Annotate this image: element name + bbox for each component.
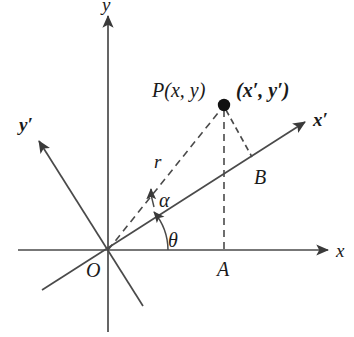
- alpha-angle-label: α: [159, 190, 170, 210]
- origin-label: O: [86, 260, 100, 280]
- y-prime-axis-label: y′: [19, 115, 33, 134]
- x-prime-axis-line: [42, 122, 305, 290]
- theta-angle-label: θ: [168, 230, 178, 250]
- foot-b-label: B: [254, 167, 266, 187]
- alpha-angle-arc: [151, 189, 154, 207]
- diagram-canvas: [0, 0, 354, 337]
- point-p-label: P(x, y): [152, 80, 205, 100]
- point-p-prime-label: (x′, y′): [236, 80, 289, 100]
- x-axis-label: x: [336, 241, 344, 260]
- radius-segment-dashed: [108, 108, 222, 250]
- p-to-b-dashed-segment: [226, 110, 252, 157]
- foot-a-label: A: [217, 259, 229, 279]
- point-p-marker: [218, 99, 230, 111]
- radius-label: r: [154, 152, 161, 171]
- rotation-of-axes-figure: y x x′ y′ P(x, y) (x′, y′) r α θ O A B: [0, 0, 354, 337]
- y-axis-label: y: [102, 0, 110, 14]
- x-prime-axis-label: x′: [313, 110, 328, 129]
